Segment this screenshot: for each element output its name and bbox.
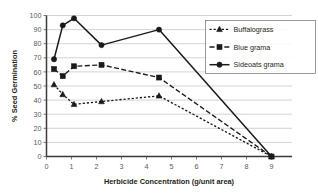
x-tick-label: 8 (245, 162, 249, 171)
x-axis-title: Herbicide Concentration (g/unit area) (104, 177, 235, 186)
y-tick-label: 50 (34, 82, 42, 91)
x-tick-label: 9 (270, 162, 274, 171)
x-tick-label: 0 (45, 162, 49, 171)
data-point-square-marker (60, 74, 65, 79)
data-point-square-marker (217, 45, 222, 50)
x-tick-label: 7 (220, 162, 224, 171)
y-tick-label: 70 (34, 53, 42, 62)
chart-figure: 0102030405060708090100 0123456789 Herbic… (0, 0, 318, 194)
legend-label: Buffalograss (234, 25, 274, 34)
data-point-circle-marker (269, 154, 274, 159)
legend-label: Blue grama (234, 43, 271, 52)
y-tick-label: 90 (34, 25, 42, 34)
data-point-square-marker (72, 64, 77, 69)
x-tick-label: 1 (70, 162, 74, 171)
data-point-square-marker (157, 75, 162, 80)
y-tick-label: 40 (34, 96, 42, 105)
legend-label: Sideoats grama (234, 60, 284, 69)
data-point-circle-marker (71, 16, 76, 21)
y-tick-label: 0 (38, 152, 42, 161)
y-tick-label: 20 (34, 124, 42, 133)
chart-legend[interactable]: BuffalograssBlue gramaSideoats grama (206, 21, 316, 74)
y-tick-label: 60 (34, 68, 42, 77)
y-tick-label: 100 (30, 11, 42, 20)
data-point-square-marker (99, 62, 104, 67)
y-tick-label: 30 (34, 110, 42, 119)
x-tick-label: 6 (195, 162, 199, 171)
data-point-circle-marker (217, 62, 222, 67)
y-tick-label: 10 (34, 138, 42, 147)
data-point-circle-marker (60, 23, 65, 28)
data-point-circle-marker (99, 43, 104, 48)
data-point-circle-marker (156, 27, 161, 32)
data-point-circle-marker (51, 57, 56, 62)
x-tick-label: 3 (120, 162, 124, 171)
y-axis-title: % Seed Germination (10, 50, 19, 122)
x-tick-label: 5 (170, 162, 174, 171)
data-point-square-marker (52, 67, 57, 72)
x-tick-label: 2 (95, 162, 99, 171)
y-tick-label: 80 (34, 39, 42, 48)
x-tick-label: 4 (145, 162, 149, 171)
chart-canvas: 0102030405060708090100 0123456789 Herbic… (0, 0, 318, 194)
